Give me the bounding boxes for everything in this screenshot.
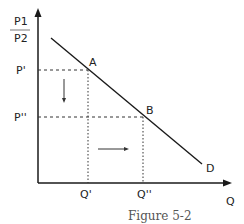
p-prime-label: P' [16,64,26,77]
p-double-prime-label: P'' [14,111,27,124]
point-a-label: A [89,56,97,69]
x-axis-label: Q [226,195,235,208]
y-label-bottom: P2 [14,32,28,45]
q-prime-label: Q' [80,188,92,201]
y-axis-arrowhead-icon [35,8,42,17]
figure-caption: Figure 5-2 [128,209,192,223]
q-double-prime-label: Q'' [137,188,152,201]
x-axis-arrowhead-icon [223,180,232,187]
y-label-top: P1 [14,15,28,28]
down-arrow-icon [62,98,66,103]
demand-diagram: P1 P2 P' P'' Q' Q'' Q A B D Figure 5-2 [0,0,244,224]
demand-curve [51,38,202,164]
point-b-label: B [146,104,154,117]
right-arrow-icon [124,147,129,151]
curve-d-label: D [206,162,214,175]
